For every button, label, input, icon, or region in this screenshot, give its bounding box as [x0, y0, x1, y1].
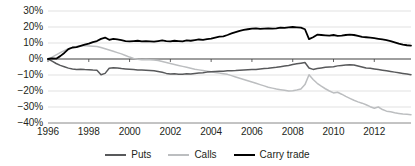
chart-legend: PutsCallsCarry trade — [0, 146, 415, 164]
plot-area: 30%20%10%0%−10%−20%−30%−40% 199619982000… — [0, 0, 415, 140]
legend-label: Calls — [194, 150, 216, 160]
x-axis-labels: 199619982000200220042006200820102012 — [0, 124, 415, 140]
chart-container: 30%20%10%0%−10%−20%−30%−40% 199619982000… — [0, 0, 415, 166]
legend-label: Puts — [131, 150, 151, 160]
legend-swatch-icon — [105, 154, 126, 156]
legend-swatch-icon — [234, 154, 255, 156]
series-line-calls — [48, 46, 411, 115]
legend-item-calls[interactable]: Calls — [168, 150, 216, 160]
x-axis-tick-label: 1996 — [37, 127, 59, 137]
legend-swatch-icon — [168, 154, 189, 156]
legend-label: Carry trade — [260, 150, 310, 160]
x-axis-tick-label: 2010 — [323, 127, 345, 137]
legend-item-puts[interactable]: Puts — [105, 150, 151, 160]
x-axis-tick-label: 2012 — [363, 127, 385, 137]
legend-item-carry-trade[interactable]: Carry trade — [234, 150, 310, 160]
x-axis-tick-label: 2000 — [119, 127, 141, 137]
x-axis-tick-label: 2004 — [200, 127, 222, 137]
x-axis-tick-label: 2006 — [241, 127, 263, 137]
x-axis-tick-label: 1998 — [78, 127, 100, 137]
x-axis-tick-label: 2002 — [159, 127, 181, 137]
series-line-puts — [48, 59, 411, 75]
x-axis-tick-label: 2008 — [282, 127, 304, 137]
chart-plot-svg — [0, 0, 415, 140]
